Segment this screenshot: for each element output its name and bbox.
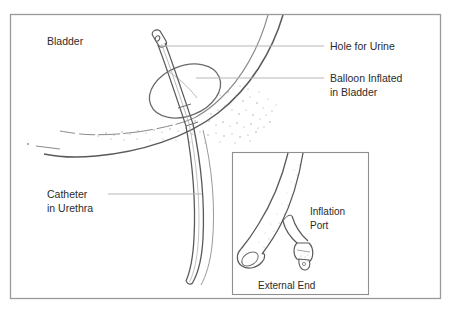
figure-root: Bladder Hole for Urine Balloon Inflated …	[0, 0, 456, 309]
label-catheter-line1: Catheter	[47, 188, 88, 200]
label-inflation-port-line2: Port	[310, 220, 329, 231]
inflation-port-opening	[302, 262, 305, 265]
label-balloon-inflated-line2: in Bladder	[330, 86, 378, 98]
inset-frame	[233, 153, 369, 295]
label-catheter-line2: in Urethra	[47, 202, 93, 214]
label-external-end: External End	[258, 280, 315, 291]
label-hole-for-urine: Hole for Urine	[330, 40, 395, 52]
inset-panel: Inflation Port External End	[233, 153, 369, 295]
label-inflation-port-line1: Inflation	[310, 206, 345, 217]
bladder-wall-fragment-b	[27, 143, 29, 145]
label-bladder: Bladder	[47, 35, 84, 47]
label-balloon-inflated-line1: Balloon Inflated	[330, 72, 403, 84]
catheter-diagram: Bladder Hole for Urine Balloon Inflated …	[0, 0, 456, 309]
